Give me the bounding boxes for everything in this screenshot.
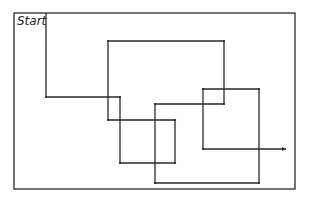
corner-mark — [202, 148, 204, 150]
corner-mark — [223, 103, 225, 105]
corner-mark — [223, 40, 225, 42]
route-path — [46, 13, 286, 183]
corner-mark — [258, 88, 260, 90]
corner-mark — [258, 182, 260, 184]
corner-mark — [45, 96, 47, 98]
corner-mark — [202, 88, 204, 90]
end-arrow-icon — [282, 147, 286, 151]
corner-mark — [174, 119, 176, 121]
path-canvas — [0, 0, 312, 199]
corner-mark — [174, 162, 176, 164]
corner-mark — [154, 103, 156, 105]
corner-mark — [154, 182, 156, 184]
corner-mark — [107, 40, 109, 42]
corner-mark — [119, 96, 121, 98]
corner-mark — [107, 119, 109, 121]
start-label: Start — [17, 14, 46, 28]
corner-mark — [119, 162, 121, 164]
